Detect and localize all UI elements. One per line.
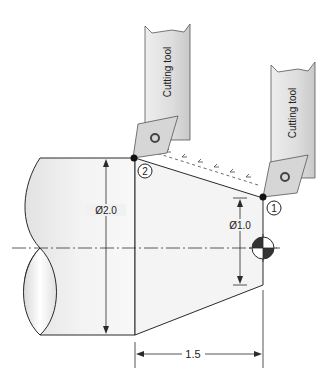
point-1-label: 1: [271, 203, 277, 214]
diagram-canvas: Ø2.0 Ø1.0 1.5 Cutting tool: [0, 0, 335, 383]
taper-length-label: 1.5: [185, 348, 200, 360]
large-diameter-label: Ø2.0: [95, 205, 117, 216]
cutting-tool-2: Cutting tool: [133, 24, 190, 158]
workpiece: [24, 158, 264, 335]
workpiece-taper-section: [135, 158, 263, 335]
point-2-label: 2: [142, 166, 148, 177]
small-diameter-label: Ø1.0: [229, 220, 251, 231]
tool-label: Cutting tool: [162, 47, 173, 98]
tool-insert: [133, 116, 178, 158]
tool-label: Cutting tool: [287, 88, 298, 139]
tool-insert: [263, 155, 308, 197]
cutting-tool-1: Cutting tool: [263, 62, 315, 197]
